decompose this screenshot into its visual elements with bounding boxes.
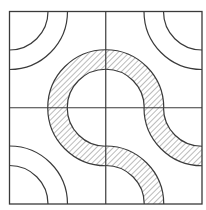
grid-lines (10, 12, 203, 205)
tile-top-left-plain-inner-arc (10, 12, 49, 51)
tile-top-right-plain-outer-arc (144, 12, 202, 70)
truchet-diagram (0, 0, 206, 210)
tile-bottom-right-bottom-left-hatched-band (106, 146, 164, 204)
tile-bottom-left-plain-outer-arc (10, 146, 68, 204)
tile-top-right-plain-inner-arc (164, 12, 203, 51)
hatched-bands (48, 50, 202, 204)
tile-bottom-left-top-right-hatched-band (48, 108, 106, 166)
tile-bottom-right-top-right-hatched-band (144, 108, 202, 166)
tile-top-right-bottom-left-hatched-band (106, 50, 164, 108)
tile-top-left-bottom-right-hatched-band (48, 50, 106, 108)
tile-bottom-left-plain-inner-arc (10, 166, 49, 205)
tile-top-left-plain-outer-arc (10, 12, 68, 70)
tile-grid-figure (0, 0, 206, 210)
